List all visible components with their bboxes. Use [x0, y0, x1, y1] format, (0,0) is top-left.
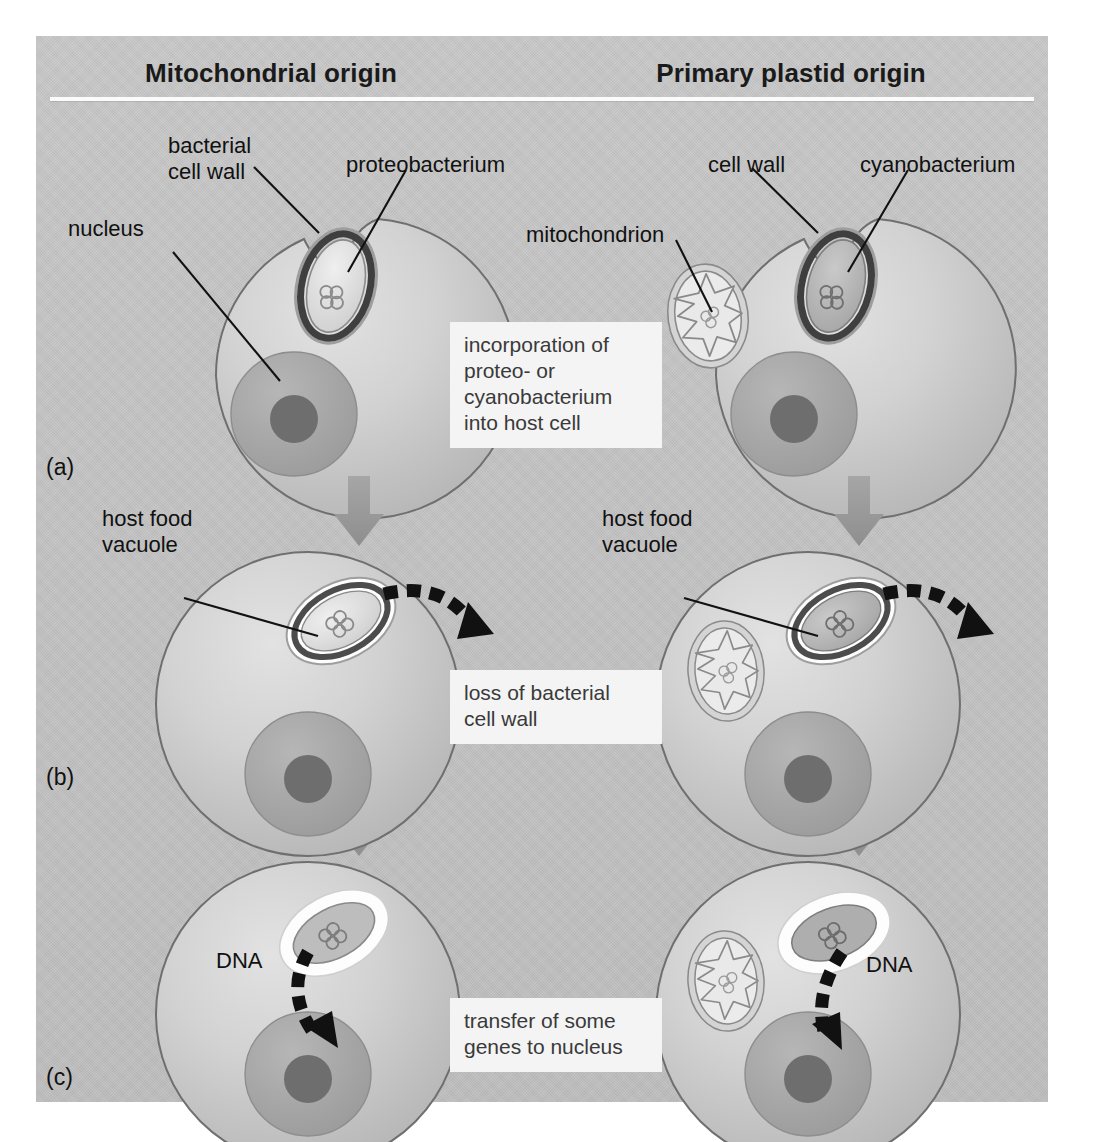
nucleolus-c-left — [284, 1055, 332, 1103]
cell-a-right — [661, 219, 1016, 519]
nucleolus-a-right — [770, 395, 818, 443]
label-proteobacterium: proteobacterium — [346, 152, 505, 178]
diagram-panel: Mitochondrial origin Primary plastid ori… — [36, 36, 1048, 1102]
nucleolus-c-right — [784, 1055, 832, 1103]
label-host-food-vacuole-left: host food vacuole — [102, 506, 193, 558]
label-nucleus: nucleus — [68, 216, 144, 242]
label-dna-left: DNA — [216, 948, 262, 974]
caption-step-c: transfer of some genes to nucleus — [450, 998, 662, 1072]
row-label-b: (b) — [46, 764, 74, 791]
nucleolus-a-left — [270, 395, 318, 443]
label-host-food-vacuole-right: host food vacuole — [602, 506, 693, 558]
label-cyanobacterium: cyanobacterium — [860, 152, 1015, 178]
label-cell-wall: cell wall — [708, 152, 785, 178]
cell-b-left — [156, 552, 494, 856]
label-dna-right: DNA — [866, 952, 912, 978]
cell-c-left — [156, 862, 460, 1142]
nucleolus-b-right — [784, 755, 832, 803]
caption-step-b: loss of bacterial cell wall — [450, 670, 662, 744]
nucleolus-b-left — [284, 755, 332, 803]
caption-step-a: incorporation of proteo- or cyanobacteri… — [450, 322, 662, 448]
cell-c-right — [656, 862, 960, 1142]
cell-b-right — [656, 552, 994, 856]
label-mitochondrion: mitochondrion — [526, 222, 664, 248]
row-label-c: (c) — [46, 1064, 73, 1091]
figure-root: Mitochondrial origin Primary plastid ori… — [0, 0, 1095, 1142]
cell-artwork-layer — [36, 36, 1048, 1102]
label-bacterial-cell-wall: bacterial cell wall — [168, 133, 251, 185]
row-label-a: (a) — [46, 454, 74, 481]
